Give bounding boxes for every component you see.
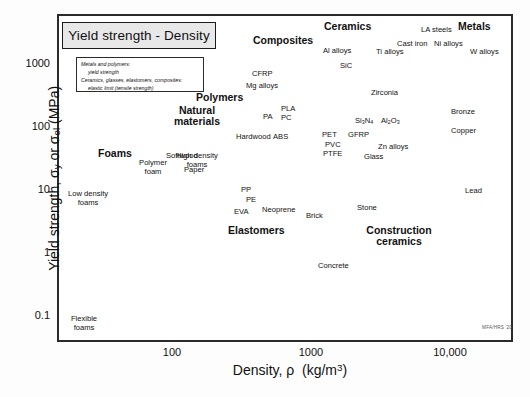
label-paper: Paper [184,166,204,175]
label-brick: Brick [306,212,323,221]
label-ti-alloys: Ti alloys [376,48,404,57]
subtitle-line-3: Ceramics, glasses, elastomers, composite… [81,76,199,84]
label-zn-alloys: Zn alloys [378,143,408,152]
chart-title: Yield strength - Density [62,22,216,49]
label-cfrp: CFRP [252,70,273,79]
label-hardwood: Hardwood [236,133,271,142]
y-tick-1: 1 [8,246,50,258]
label-ptfe: PTFE [323,150,342,159]
label-eva: EVA [234,208,249,217]
subtitle-line-2: yield strength [81,68,199,76]
label-ni-alloys: Ni alloys [434,40,463,49]
chart-subtitle-box: Metals and polymers: yield strength Cera… [76,57,204,92]
credit-text: MFA/HRS '20 [482,325,512,330]
family-label-composites: Composites [253,35,313,47]
label-pp: PP [241,186,251,195]
label-al2o3: Al2O3 [381,117,400,126]
label-cast-iron: Cast iron [397,40,427,49]
label-la-steels: LA steels [421,26,452,35]
subtitle-line-4: elastic limit (tensile strength) [81,84,199,92]
family-label-elastomers: Elastomers [228,225,285,237]
label-zirconia: Zirconia [371,89,398,98]
label-stone: Stone [357,204,377,213]
x-axis-label: Density, ρ (kg/m3) [170,362,410,378]
y-tick-0.1: 0.1 [8,309,50,321]
label-pe: PE [246,196,256,205]
label-pa: PA [263,113,273,122]
family-label-natural-materials: Naturalmaterials [161,105,233,127]
label-w-alloys: W alloys [470,48,499,57]
label-low-density-foams: Low densityfoams [60,190,116,207]
y-tick-100: 100 [8,120,50,132]
label-abs: ABS [273,133,288,142]
label-flexible-foams: Flexiblefoams [62,315,106,332]
label-sic: SiC [340,62,352,71]
label-copper: Copper [451,127,476,136]
label-lead: Lead [465,187,482,196]
y-tick-10: 10 [8,183,50,195]
label-gfrp: GFRP [348,131,369,140]
label-bronze: Bronze [451,108,475,117]
ashby-chart: Yield strength - Density Metals and poly… [0,0,530,397]
label-pet: PET [322,131,337,140]
x-tick-10000: 10,000 [415,346,485,358]
label-neoprene: Neoprene [262,206,295,215]
subtitle-line-1: Metals and polymers: [81,60,199,68]
family-label-polymers: Polymers [196,92,243,104]
label-softwood: Softwood [166,152,198,161]
y-axis-label: Yield strength, σy or σel (MPa) [46,28,63,328]
family-label-metals: Metals [458,21,491,33]
family-label-ceramics: Ceramics [324,21,371,33]
label-pc: PC [281,114,292,123]
label-al-alloys: Al alloys [323,47,351,56]
label-concrete: Concrete [318,262,349,271]
family-label-construction-ceramics: Constructionceramics [356,225,442,247]
y-tick-1000: 1000 [8,57,50,69]
label-mg-alloys: Mg alloys [246,82,278,91]
label-si3n4: Si3N4 [355,117,373,126]
x-tick-100: 100 [137,346,207,358]
family-label-foams: Foams [98,148,132,160]
label-glass: Glass [364,153,383,162]
x-tick-1000: 1000 [276,346,346,358]
